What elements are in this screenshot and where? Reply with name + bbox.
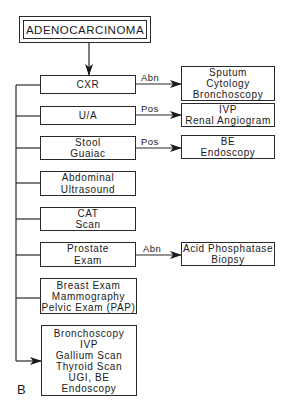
test-label: Pelvic Exam (PAP) (42, 302, 136, 313)
edge-label-stool: Pos (141, 136, 159, 147)
test-label: UGI, BE (69, 372, 110, 383)
followup-label: BE (221, 136, 236, 147)
test-box-ua: U/A (40, 106, 136, 125)
followup-label: IVP (219, 104, 237, 115)
followup-label: Bronchoscopy (193, 89, 264, 100)
diagram-title: ADENOCARCINOMA (26, 24, 144, 36)
edge-label-ua: Pos (141, 103, 159, 114)
test-box-breast-pelvic: Breast Exam Mammography Pelvic Exam (PAP… (40, 278, 137, 314)
followup-label: Sputum (209, 67, 247, 78)
test-label: Breast Exam (57, 280, 121, 291)
test-box-prostate-exam: Prostate Exam (40, 242, 136, 267)
followup-box-acid-phosphatase: Acid Phosphatase Biopsy (181, 242, 275, 266)
test-label: CXR (77, 79, 100, 90)
test-label: Gallium Scan (56, 350, 123, 361)
title-box: ADENOCARCINOMA (23, 20, 147, 39)
test-label: Scan (75, 219, 100, 230)
test-label: Thyroid Scan (56, 361, 122, 372)
edge-label-cxr: Abn (141, 72, 159, 83)
test-label: Endoscopy (62, 383, 117, 394)
test-box-cxr: CXR (40, 75, 136, 94)
test-label: IVP (80, 339, 98, 350)
test-box-cat-scan: CAT Scan (40, 207, 136, 231)
test-label: Abdominal (62, 172, 115, 184)
followup-label: Renal Angiogram (185, 115, 271, 126)
test-label: U/A (79, 110, 97, 121)
followup-box-sputum: Sputum Cytology Bronchoscopy (181, 66, 275, 101)
test-label: Exam (74, 255, 102, 267)
edge-label-prostate: Abn (143, 243, 161, 254)
followup-label: Cytology (206, 78, 250, 89)
test-label: Stool (75, 137, 101, 148)
test-label: Guaiac (70, 148, 105, 159)
test-label: Bronchoscopy (54, 328, 125, 339)
test-box-abdominal-ultrasound: Abdominal Ultrasound (40, 171, 136, 196)
test-box-stool-guaiac: Stool Guaiac (40, 136, 136, 160)
followup-box-ivp: IVP Renal Angiogram (181, 103, 275, 127)
test-label: Ultrasound (61, 184, 115, 196)
test-label: Mammography (52, 291, 125, 302)
test-label: CAT (77, 208, 98, 219)
test-label: Prostate (67, 243, 109, 255)
test-box-final-workup: Bronchoscopy IVP Gallium Scan Thyroid Sc… (41, 325, 137, 396)
followup-label: Biopsy (211, 254, 245, 265)
followup-box-be-endoscopy: BE Endoscopy (181, 135, 275, 159)
followup-label: Acid Phosphatase (183, 243, 273, 254)
followup-label: Endoscopy (201, 147, 256, 158)
panel-label: B (17, 382, 26, 397)
